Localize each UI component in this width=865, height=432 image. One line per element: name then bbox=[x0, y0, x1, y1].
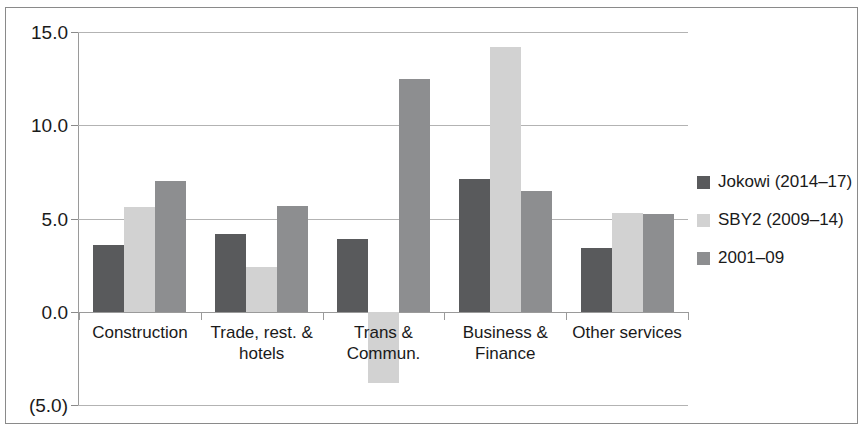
chart-figure: 15.010.05.00.0(5.0) ConstructionTrade, r… bbox=[0, 0, 865, 432]
bar[interactable] bbox=[337, 239, 368, 312]
x-axis-divider bbox=[566, 312, 567, 320]
x-axis-tick-label: Trans & Commun. bbox=[323, 322, 445, 382]
x-axis-tick-label: Construction bbox=[79, 322, 201, 382]
x-axis-divider bbox=[323, 312, 324, 320]
y-axis-labels: 15.010.05.00.0(5.0) bbox=[0, 0, 68, 432]
legend-item[interactable]: SBY2 (2009–14) bbox=[697, 204, 862, 236]
x-axis-tick-label: Other services bbox=[566, 322, 688, 382]
bar[interactable] bbox=[124, 207, 155, 312]
y-axis-tick bbox=[71, 312, 78, 313]
legend-item[interactable]: 2001–09 bbox=[697, 242, 862, 274]
bar[interactable] bbox=[215, 234, 246, 312]
bar[interactable] bbox=[490, 47, 521, 312]
y-axis-tick-label: 5.0 bbox=[2, 209, 68, 228]
y-axis-tick bbox=[71, 219, 78, 220]
legend-swatch-icon bbox=[697, 176, 710, 189]
y-axis-tick-label: 0.0 bbox=[2, 303, 68, 322]
x-axis-divider bbox=[444, 312, 445, 320]
legend-item-label: SBY2 (2009–14) bbox=[718, 210, 844, 230]
bar[interactable] bbox=[246, 267, 277, 312]
y-axis-tick bbox=[71, 32, 78, 33]
chart-legend: Jokowi (2014–17)SBY2 (2009–14)2001–09 bbox=[697, 166, 862, 280]
bar[interactable] bbox=[277, 206, 308, 312]
y-axis-tick-label: 10.0 bbox=[2, 116, 68, 135]
x-axis-divider bbox=[201, 312, 202, 320]
legend-item-label: 2001–09 bbox=[718, 248, 784, 268]
x-axis-tick-label: Business & Finance bbox=[444, 322, 566, 382]
bar[interactable] bbox=[521, 191, 552, 312]
y-axis-tick-label: (5.0) bbox=[2, 396, 68, 415]
y-axis-tick bbox=[71, 405, 78, 406]
bar[interactable] bbox=[612, 213, 643, 312]
bar[interactable] bbox=[399, 79, 430, 312]
bar[interactable] bbox=[155, 181, 186, 312]
bar[interactable] bbox=[581, 248, 612, 312]
legend-item[interactable]: Jokowi (2014–17) bbox=[697, 166, 862, 198]
x-axis-divider bbox=[79, 312, 80, 320]
y-axis-tick-label: 15.0 bbox=[2, 23, 68, 42]
x-axis-labels: ConstructionTrade, rest. & hotelsTrans &… bbox=[79, 322, 688, 382]
bar[interactable] bbox=[643, 214, 674, 312]
gridline bbox=[78, 405, 688, 406]
legend-swatch-icon bbox=[697, 214, 710, 227]
x-axis-divider bbox=[688, 312, 689, 320]
legend-swatch-icon bbox=[697, 252, 710, 265]
bar[interactable] bbox=[459, 179, 490, 312]
y-axis-tick bbox=[71, 125, 78, 126]
legend-item-label: Jokowi (2014–17) bbox=[718, 172, 852, 192]
bar[interactable] bbox=[93, 245, 124, 312]
x-axis-tick-label: Trade, rest. & hotels bbox=[201, 322, 323, 382]
